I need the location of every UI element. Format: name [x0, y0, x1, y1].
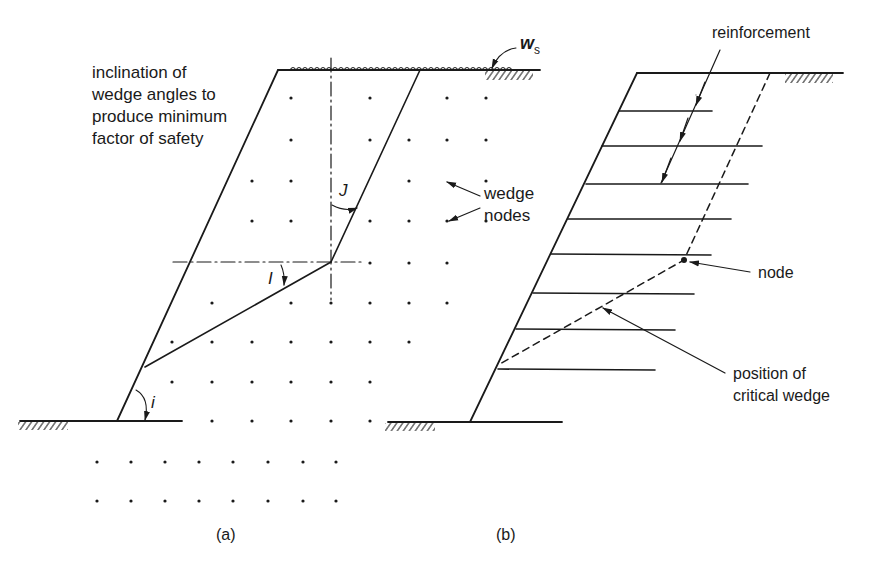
surcharge-label: ws	[520, 32, 540, 61]
critical-node	[681, 257, 687, 263]
angle-label-i: i	[151, 392, 155, 414]
reinforcement-arrow-top	[696, 82, 705, 105]
wedge-nodes-line-1: wedge	[484, 183, 534, 205]
annotation-line-3: produce minimum	[92, 106, 227, 128]
angle-label-I: I	[268, 268, 273, 290]
wedge-upper-line	[331, 70, 420, 262]
nodes-leader-lower	[449, 208, 480, 221]
annotation-line-2: wedge angles to	[92, 84, 227, 106]
wedge-nodes-label: wedge nodes	[484, 183, 534, 227]
node-leader	[690, 262, 750, 272]
ground-hatch-b	[385, 423, 435, 431]
critical-wedge-leader	[603, 308, 725, 373]
surcharge-symbol: w	[520, 33, 534, 53]
wedge-node-grid	[95, 96, 487, 502]
angle-label-J: J	[339, 180, 348, 202]
surcharge-leader	[492, 48, 516, 68]
angle-arc-J	[332, 205, 357, 209]
ground-hatch-crest-b	[785, 74, 833, 83]
caption-a: (a)	[216, 524, 236, 546]
nodes-leader-upper	[447, 182, 480, 196]
wedge-lower-line	[145, 262, 331, 367]
reinforcement-arrow-bottom	[662, 158, 671, 182]
reinforcement-leader	[661, 50, 720, 183]
reinforcement-label: reinforcement	[712, 22, 810, 44]
critical-wedge-line-1: position of	[733, 363, 830, 385]
node-label: node	[758, 262, 794, 284]
critical-wedge-label: position of critical wedge	[733, 363, 830, 407]
reinforcement-arrow-mid	[680, 118, 688, 141]
caption-b: (b)	[496, 524, 516, 546]
ground-hatch-left	[18, 422, 68, 430]
ground-hatch-crest-a	[485, 71, 533, 80]
annotation-line-1: inclination of	[92, 62, 227, 84]
angle-arc-i	[136, 390, 146, 420]
reinforcement-layers	[498, 111, 762, 370]
surcharge-subscript: s	[534, 43, 540, 57]
critical-wedge-line-2: critical wedge	[733, 385, 830, 407]
wedge-nodes-line-2: nodes	[484, 205, 534, 227]
angle-arc-I	[281, 265, 284, 285]
annotation-inclination: inclination of wedge angles to produce m…	[92, 62, 227, 150]
annotation-line-4: factor of safety	[92, 128, 227, 150]
